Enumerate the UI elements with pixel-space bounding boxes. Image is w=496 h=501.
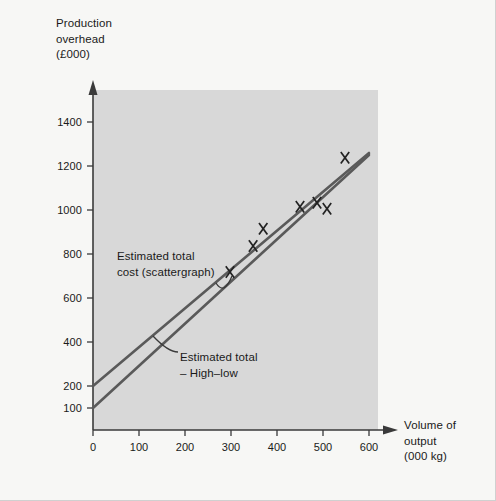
x-axis-arrowhead bbox=[383, 426, 398, 435]
y-tick-label-400: 400 bbox=[42, 336, 82, 348]
x-tick-label-0: 0 bbox=[73, 441, 113, 453]
y-tick-label-800: 800 bbox=[42, 248, 82, 260]
y-axis-title: Production overhead (£000) bbox=[56, 16, 112, 63]
y-tick-label-200: 200 bbox=[42, 380, 82, 392]
x-tick-label-100: 100 bbox=[119, 441, 159, 453]
y-tick-label-100: 100 bbox=[42, 402, 82, 414]
x-tick-label-600: 600 bbox=[349, 441, 389, 453]
x-tick-label-500: 500 bbox=[303, 441, 343, 453]
figure-container: Production overhead (£000) Volume of out… bbox=[0, 0, 496, 501]
y-axis-arrowhead bbox=[89, 80, 98, 95]
annotation-scattergraph: Estimated total cost (scattergraph) bbox=[117, 249, 215, 280]
x-tick-label-200: 200 bbox=[165, 441, 205, 453]
y-tick-label-1400: 1400 bbox=[42, 116, 82, 128]
y-axis-ticks bbox=[87, 122, 93, 408]
x-axis-ticks bbox=[93, 430, 369, 436]
annotation-high-low: Estimated total – High–low bbox=[180, 350, 258, 381]
x-tick-label-400: 400 bbox=[257, 441, 297, 453]
y-tick-label-1000: 1000 bbox=[42, 204, 82, 216]
x-axis-title: Volume of output (000 kg) bbox=[404, 418, 456, 465]
x-tick-label-300: 300 bbox=[211, 441, 251, 453]
y-tick-label-600: 600 bbox=[42, 292, 82, 304]
y-tick-label-1200: 1200 bbox=[42, 160, 82, 172]
